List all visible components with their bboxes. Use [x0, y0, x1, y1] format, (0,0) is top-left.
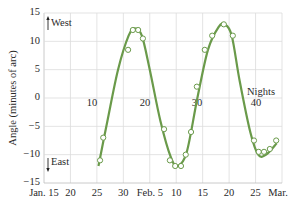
x-axis-ticks: Jan. 15202530Feb. 510152025Mar. 1: [29, 187, 289, 198]
data-point-marker: [130, 27, 135, 32]
data-point-marker: [274, 138, 279, 143]
east-annotation: East: [46, 156, 69, 172]
data-point-marker: [194, 84, 199, 89]
data-point-marker: [188, 129, 193, 134]
x-tick-label: 20: [224, 187, 235, 198]
data-point-marker: [125, 47, 130, 52]
data-point-marker: [256, 149, 261, 154]
west-label: West: [51, 17, 72, 28]
arrow-up-head-icon: [46, 16, 49, 20]
nights-tick-label: 10: [87, 97, 98, 108]
data-point-marker: [178, 163, 183, 168]
y-tick-label: 5: [35, 63, 40, 74]
nights-tick-label: 40: [251, 97, 262, 108]
east-label: East: [51, 156, 69, 167]
x-tick-label: 30: [118, 187, 129, 198]
data-point-marker: [183, 152, 188, 157]
x-tick-label: Mar. 1: [268, 187, 289, 198]
x-tick-label: 15: [197, 187, 208, 198]
data-point-marker: [136, 27, 141, 32]
y-tick-label: 15: [30, 6, 41, 17]
data-point-marker: [161, 127, 166, 132]
x-tick-label: 25: [92, 187, 103, 198]
data-point-marker: [221, 22, 226, 27]
y-tick-label: 0: [35, 91, 40, 102]
west-annotation: West: [46, 16, 72, 30]
data-point-marker: [97, 158, 102, 163]
data-point-marker: [251, 138, 256, 143]
data-point-marker: [230, 33, 235, 38]
nights-label: Nights: [247, 86, 275, 97]
x-tick-label: 20: [65, 187, 76, 198]
data-point-marker: [101, 135, 106, 140]
data-point-marker: [167, 158, 172, 163]
chart-canvas: 151050−5−10−15 Jan. 15202530Feb. 5101520…: [0, 0, 289, 204]
y-axis-label: Angle (minutes of arc): [7, 50, 19, 146]
data-point-marker: [173, 163, 178, 168]
x-tick-label: Jan. 15: [29, 187, 59, 198]
x-tick-label: Feb. 5: [137, 187, 163, 198]
x-tick-label: 25: [250, 187, 261, 198]
y-axis-ticks: 151050−5−10−15: [24, 6, 40, 187]
data-point-marker: [202, 47, 207, 52]
data-point-marker: [210, 33, 215, 38]
data-point-marker: [140, 36, 145, 41]
arrow-down-head-icon: [46, 168, 49, 172]
nights-tick-label: 20: [140, 97, 151, 108]
grid: [44, 13, 282, 183]
x-tick-label: 10: [171, 187, 182, 198]
data-point-marker: [267, 146, 272, 151]
y-tick-label: −5: [29, 120, 40, 131]
data-point-marker: [261, 149, 266, 154]
y-tick-label: −10: [24, 148, 40, 159]
y-tick-label: −15: [24, 176, 40, 187]
y-tick-label: 10: [30, 35, 41, 46]
